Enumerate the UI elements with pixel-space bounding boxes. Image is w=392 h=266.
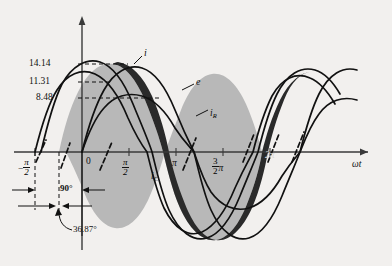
x-tick-zero: 0: [86, 157, 91, 167]
y-label-11-31: 11.31: [29, 77, 50, 87]
x-axis-label: ωt: [352, 160, 361, 170]
x-tick-neg-pi-den: 2: [23, 168, 30, 177]
leader-i: [134, 56, 142, 64]
x-axis-arrow: [360, 149, 368, 156]
y-axis-arrow: [79, 16, 86, 25]
curve-label-i: i: [144, 48, 147, 58]
y-label-14-14: 14.14: [29, 59, 50, 69]
waveform-figure: [0, 0, 392, 266]
y-label-8-48: 8.48: [36, 93, 53, 103]
x-tick-pi-over-2: π2: [122, 158, 129, 178]
curve-label-iR: iR: [210, 103, 217, 120]
x-tick-neg-pi-over-2: −π2: [18, 158, 30, 178]
x-tick-pi: π: [172, 159, 177, 169]
x-tick-pi2-den: 2: [122, 168, 129, 177]
x-tick-32pi-pi: π: [219, 163, 224, 173]
curve-label-iC-sub: C: [154, 175, 158, 182]
curve-label-iC: iC: [151, 166, 158, 183]
annotation-36-87-deg: 36.87°: [73, 225, 97, 234]
curve-label-e: e: [196, 77, 200, 87]
x-tick-two-pi: 2π: [265, 151, 275, 161]
annotation-90-deg: 90°: [60, 184, 73, 193]
x-tick-three-halves-pi: 32π: [212, 157, 223, 177]
curve-label-iR-sub: R: [213, 112, 217, 119]
